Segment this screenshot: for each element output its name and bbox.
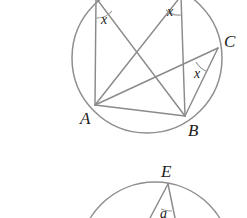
angle-label-e: x [166, 4, 174, 19]
point-label-c: C [224, 32, 236, 51]
point-label-e2: E [160, 162, 172, 181]
segment-d-a [95, 0, 96, 105]
angle-label-c: x [193, 66, 201, 81]
point-label-b: B [188, 121, 199, 140]
angle-label-e2: a [160, 206, 167, 218]
angle-label-d: x [100, 12, 108, 27]
point-label-a: A [79, 109, 91, 128]
figure-root: x x x A B C a E [0, 0, 247, 218]
geometry-canvas: x x x A B C a E [0, 0, 247, 218]
